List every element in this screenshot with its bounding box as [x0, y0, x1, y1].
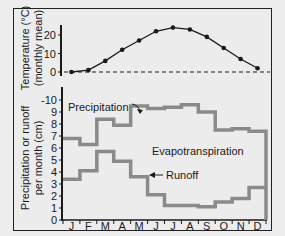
runoff-arrowhead — [149, 172, 155, 178]
precip-y-tick-label: 8 — [51, 118, 57, 130]
temp-y-tick-label: 20 — [44, 29, 56, 41]
precip-y-tick-label: 0 — [51, 214, 57, 226]
evapotranspiration-label: Evapotranspiration — [152, 145, 244, 157]
month-label: M — [135, 220, 144, 232]
temperature-point — [69, 70, 74, 75]
runoff-step-line — [63, 152, 266, 207]
temperature-point — [204, 35, 209, 40]
precip-y-tick-label: -10 — [41, 94, 57, 106]
month-label: S — [203, 220, 210, 232]
precip-y-tick-label: 4 — [51, 166, 57, 178]
month-label: J — [69, 220, 75, 232]
temp-y-tick-label: 0 — [50, 66, 56, 78]
temperature-line — [71, 28, 257, 72]
temperature-point — [86, 68, 91, 73]
month-label: J — [153, 220, 159, 232]
precip-y-tick-label: 7 — [51, 130, 57, 142]
temp-axis-title-2: (monthly mean) — [32, 10, 44, 86]
precip-y-tick-label: 1 — [51, 202, 57, 214]
temp-axis-title-1: Temperature (°C) — [19, 6, 31, 90]
month-label: O — [219, 220, 228, 232]
temperature-point — [120, 48, 125, 53]
temperature-point — [238, 57, 243, 62]
month-label: F — [85, 220, 92, 232]
month-label: J — [170, 220, 176, 232]
climate-chart: 01020Temperature (°C)(monthly mean)01234… — [0, 0, 285, 236]
precipitation-label: Precipitation — [68, 101, 129, 113]
precip-axis-title-1: Precipitation or runoff — [19, 105, 31, 210]
precip-y-tick-label: 2 — [51, 190, 57, 202]
temperature-point — [171, 25, 176, 30]
precip-y-tick-label: 5 — [51, 154, 57, 166]
precip-axis-title-2: per month (cm) — [32, 121, 44, 196]
month-label: N — [237, 220, 245, 232]
temperature-point — [188, 27, 193, 32]
temperature-point — [221, 46, 226, 51]
precip-y-tick-label: 3 — [51, 178, 57, 190]
temperature-point — [255, 66, 260, 71]
month-label: A — [186, 220, 194, 232]
temperature-point — [103, 59, 108, 64]
month-label: D — [254, 220, 262, 232]
precipitation-arrowhead — [137, 109, 143, 114]
month-label: M — [101, 220, 110, 232]
temp-y-tick-label: 10 — [44, 48, 56, 60]
runoff-label: Runoff — [166, 169, 199, 181]
precip-y-tick-label: 9 — [51, 106, 57, 118]
month-label: A — [119, 220, 127, 232]
precip-y-tick-label: 6 — [51, 142, 57, 154]
temperature-point — [137, 38, 142, 43]
temperature-point — [154, 29, 159, 34]
